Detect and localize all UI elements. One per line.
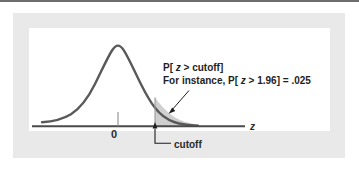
- annotation-line-1-prefix: P[: [163, 62, 176, 73]
- annotation-line-1: P[ z > cutoff]: [163, 61, 311, 74]
- tail-probability-annotation: P[ z > cutoff] For instance, P[ z > 1.96…: [163, 61, 311, 87]
- axis-tick-label-zero: 0: [111, 128, 117, 140]
- cutoff-label: cutoff: [174, 139, 202, 150]
- normal-curve-figure: 0 z cutoff P[ z > cutoff] For instance, …: [0, 0, 359, 169]
- annotation-line-2-suffix: > 1.96] = .025: [246, 75, 311, 86]
- annotation-line-1-suffix: > cutoff]: [181, 62, 224, 73]
- annotation-leader-line: [172, 91, 190, 111]
- annotation-line-2-prefix: For instance, P[: [163, 75, 241, 86]
- cutoff-leader-line: [155, 129, 171, 143]
- axis-label-z: z: [250, 121, 255, 132]
- annotation-line-2: For instance, P[ z > 1.96] = .025: [163, 74, 311, 87]
- annotation-arrowhead-icon: [169, 108, 176, 114]
